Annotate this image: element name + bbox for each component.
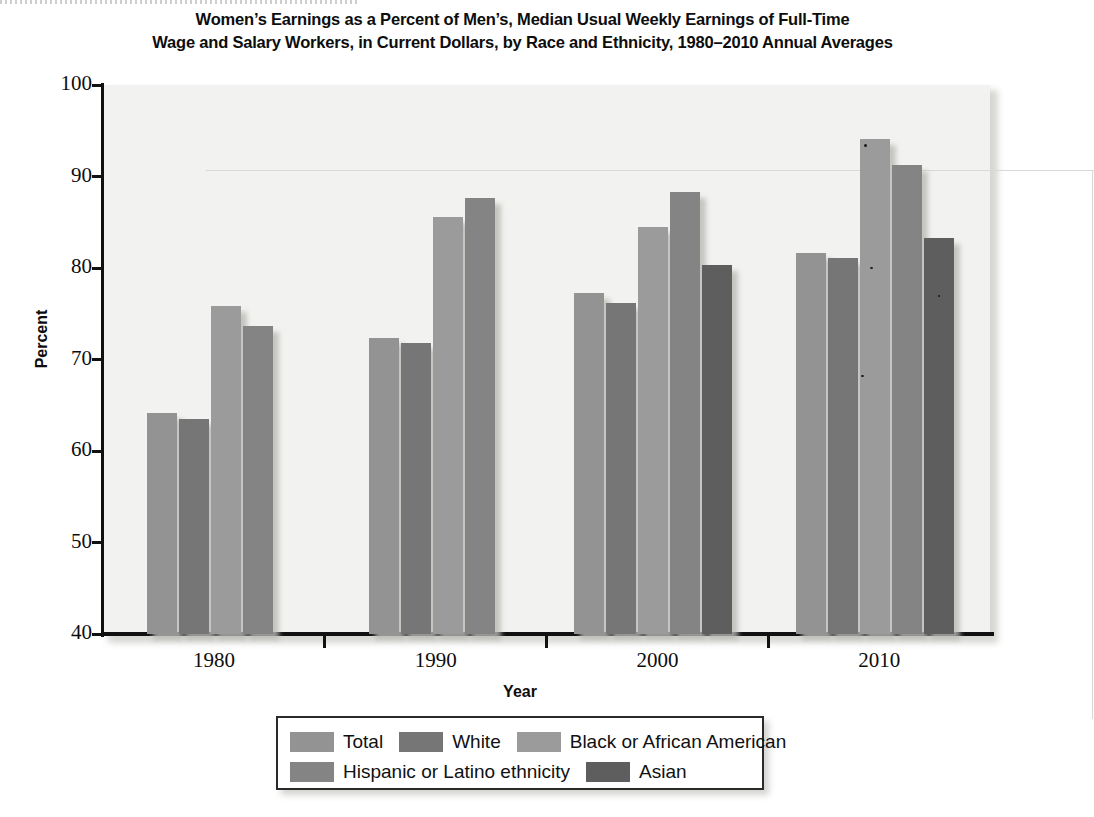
y-tick-80 (92, 267, 103, 270)
bar-2000-black-or-african-american (638, 227, 668, 634)
legend-row-1: TotalWhiteBlack or African American (290, 727, 750, 757)
y-axis-label: Percent (33, 279, 51, 399)
chart-title-line-2: Wage and Salary Workers, in Current Doll… (50, 31, 995, 54)
y-tick-label-text: 50 (40, 529, 92, 554)
legend-item-label: Black or African American (570, 731, 786, 753)
scan-speck-1 (870, 267, 873, 269)
x-tick-boundary-2 (545, 636, 548, 648)
bar-face (465, 198, 495, 634)
legend-item-black-or-african-american[interactable]: Black or African American (517, 731, 786, 753)
plot-frame-right (1092, 170, 1093, 719)
y-tick-label-text: 90 (40, 163, 92, 188)
y-tick-100 (92, 84, 103, 87)
bar-face (147, 413, 177, 634)
bar-face (892, 165, 922, 634)
bar-face (796, 253, 826, 634)
bar-face (924, 238, 954, 634)
y-tick-90 (92, 175, 103, 178)
bar-face (179, 419, 209, 634)
scan-speck-0 (864, 144, 867, 147)
legend-item-label: Hispanic or Latino ethnicity (343, 761, 570, 783)
plot-frame-top (206, 170, 1094, 171)
bar-2000-white (606, 303, 636, 634)
x-tick-label-2010: 2010 (819, 648, 939, 673)
chart-title-line-1: Women’s Earnings as a Percent of Men’s, … (50, 8, 995, 31)
bar-2000-asian (702, 265, 732, 634)
bar-face (433, 217, 463, 634)
bar-2010-hispanic-or-latino-ethnicity (892, 165, 922, 634)
x-tick-boundary-3 (767, 636, 770, 648)
x-tick-label-2000: 2000 (597, 648, 717, 673)
bar-2010-total (796, 253, 826, 634)
y-tick-label-text: 60 (40, 437, 92, 462)
bar-1980-hispanic-or-latino-ethnicity (243, 326, 273, 634)
bar-face (606, 303, 636, 634)
bar-1990-black-or-african-american (433, 217, 463, 634)
bar-face (828, 258, 858, 634)
bar-1980-total (147, 413, 177, 634)
chart-title: Women’s Earnings as a Percent of Men’s, … (50, 8, 995, 54)
scan-speck-2 (861, 375, 864, 377)
bar-face (211, 306, 241, 634)
legend-swatch-icon (586, 762, 630, 782)
legend-item-white[interactable]: White (399, 731, 501, 753)
legend-row-2: Hispanic or Latino ethnicityAsian (290, 757, 750, 787)
bar-1990-hispanic-or-latino-ethnicity (465, 198, 495, 634)
legend-item-hispanic-or-latino-ethnicity[interactable]: Hispanic or Latino ethnicity (290, 761, 570, 783)
bar-face (860, 139, 890, 634)
y-tick-70 (92, 358, 103, 361)
y-tick-label-text: 40 (40, 620, 92, 645)
legend-swatch-icon (399, 732, 443, 752)
bar-1980-white (179, 419, 209, 634)
bar-1980-black-or-african-american (211, 306, 241, 634)
bar-2000-hispanic-or-latino-ethnicity (670, 192, 700, 634)
chart-legend: TotalWhiteBlack or African American Hisp… (276, 716, 764, 790)
x-tick-boundary-1 (323, 636, 326, 648)
bar-face (670, 192, 700, 634)
y-tick-40 (92, 633, 103, 636)
scan-speck-3 (938, 295, 940, 297)
legend-item-label: Asian (639, 761, 687, 783)
y-tick-50 (92, 541, 103, 544)
bar-1990-white (401, 343, 431, 634)
legend-swatch-icon (517, 732, 561, 752)
y-tick-label-text: 100 (40, 71, 92, 96)
x-tick-label-1980: 1980 (154, 648, 274, 673)
bar-1990-total (369, 338, 399, 634)
bar-face (243, 326, 273, 634)
x-axis-label: Year (0, 683, 1040, 701)
bar-2010-white (828, 258, 858, 634)
bar-face (702, 265, 732, 634)
x-tick-label-1990: 1990 (376, 648, 496, 673)
bar-2000-total (574, 293, 604, 634)
legend-item-total[interactable]: Total (290, 731, 383, 753)
bar-face (401, 343, 431, 634)
bar-face (574, 293, 604, 634)
bar-face (369, 338, 399, 634)
legend-item-asian[interactable]: Asian (586, 761, 687, 783)
y-tick-label-text: 80 (40, 254, 92, 279)
legend-item-label: Total (343, 731, 383, 753)
bar-2010-asian (924, 238, 954, 634)
y-tick-60 (92, 450, 103, 453)
bar-2010-black-or-african-american (860, 139, 890, 634)
legend-swatch-icon (290, 732, 334, 752)
legend-item-label: White (452, 731, 501, 753)
bar-face (638, 227, 668, 634)
legend-swatch-icon (290, 762, 334, 782)
scan-edge-artifact (0, 0, 360, 4)
